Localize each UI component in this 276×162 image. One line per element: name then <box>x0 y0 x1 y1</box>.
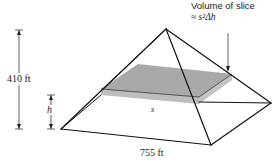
height-arrow-up-icon <box>17 30 21 35</box>
callout-formula: ≈ s²Δh <box>191 13 215 23</box>
height-label: 410 ft <box>7 73 31 85</box>
callout-title: Volume of slice <box>191 1 255 11</box>
base-front-left-edge <box>61 129 211 145</box>
pyramid-svg <box>0 0 276 162</box>
h-arrow-up-icon <box>49 95 53 100</box>
base-front-right-edge <box>211 103 271 145</box>
h-arrow-down-icon <box>49 124 53 129</box>
base-label: 755 ft <box>140 148 164 158</box>
back-base-edge <box>199 102 271 103</box>
h-label: h <box>47 105 52 115</box>
s-label: s <box>151 106 154 114</box>
height-arrow-down-icon <box>17 124 21 129</box>
